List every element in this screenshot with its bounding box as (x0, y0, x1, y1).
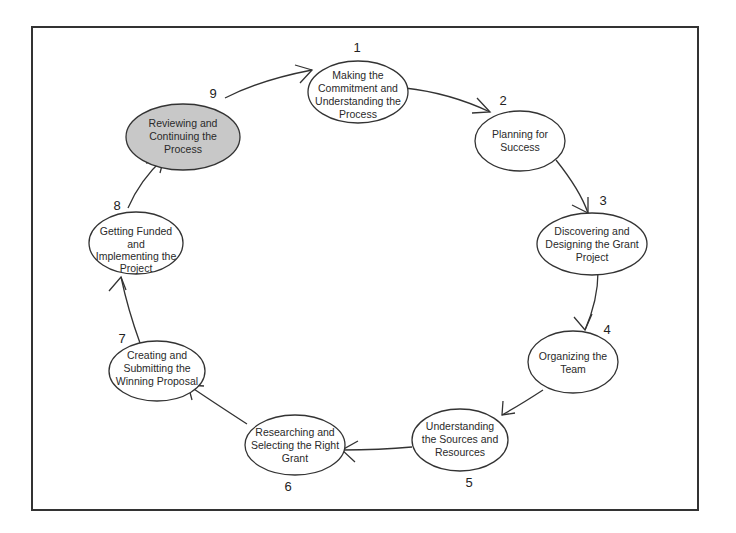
arrow-6-to-7 (188, 385, 247, 424)
step-7: 7 Creating and Submitting the Winning Pr… (109, 331, 205, 401)
step-label-line: Implementing the (96, 250, 177, 262)
step-number: 9 (209, 86, 216, 101)
arrowhead-1 (295, 65, 312, 83)
step-label-line: Grant (282, 452, 308, 464)
step-label-line: Commitment and (318, 82, 398, 94)
step-label-line: Process (164, 143, 202, 155)
step-label-line: Success (500, 141, 540, 153)
step-number: 6 (284, 479, 291, 494)
step-5: Understanding the Sources and Resources … (412, 409, 508, 490)
step-label-line: Project (576, 251, 609, 263)
cycle-diagram: 1 Making the Commitment and Understandin… (0, 0, 736, 533)
arrow-3-to-4 (585, 272, 598, 330)
step-number: 5 (465, 475, 472, 490)
arrow-5-to-6 (342, 447, 412, 450)
step-6: Researching and Selecting the Right Gran… (245, 415, 345, 494)
step-3: 3 Discovering and Designing the Grant Pr… (537, 193, 647, 275)
step-label-line: Understanding the (315, 95, 401, 107)
arrowhead-3 (572, 197, 588, 213)
step-2: 2 Planning for Success (475, 93, 565, 171)
step-label-line: the Sources and (422, 433, 499, 445)
step-number: 3 (599, 193, 606, 208)
step-4: 4 Organizing the Team (528, 322, 618, 393)
arrow-4-to-5 (502, 390, 543, 415)
step-number: 7 (118, 331, 125, 346)
step-label-line: Submitting the (123, 362, 190, 374)
step-label-line: Making the (332, 69, 384, 81)
step-9: 9 Reviewing and Continuing the Process (126, 86, 240, 170)
step-node (528, 331, 618, 393)
step-label-line: Researching and (255, 426, 335, 438)
step-label-line: Reviewing and (149, 117, 218, 129)
step-label-line: Resources (435, 446, 485, 458)
step-label-line: Selecting the Right (251, 439, 339, 451)
step-label-line: Understanding (426, 420, 494, 432)
arrow-1-to-2 (405, 88, 490, 112)
step-label-line: Planning for (492, 128, 549, 140)
arrow-9-to-1 (225, 70, 312, 98)
step-1: 1 Making the Commitment and Understandin… (308, 40, 408, 123)
step-label-line: Discovering and (554, 225, 629, 237)
step-number: 1 (353, 40, 360, 55)
step-label-line: Winning Proposal (116, 375, 198, 387)
step-label-line: Project (120, 262, 153, 274)
step-number: 2 (499, 93, 506, 108)
step-label-line: Process (339, 108, 377, 120)
step-number: 8 (113, 198, 120, 213)
step-label-line: Organizing the (539, 350, 607, 362)
step-label-line: and (127, 238, 145, 250)
step-label-line: Creating and (127, 349, 187, 361)
step-label-line: Designing the Grant (545, 238, 638, 250)
step-label-line: Team (560, 363, 586, 375)
step-label-line: Getting Funded (100, 225, 173, 237)
step-number: 4 (603, 322, 610, 337)
step-label-line: Continuing the (149, 130, 217, 142)
step-8: 8 Getting Funded and Implementing the Pr… (89, 198, 183, 274)
arrowhead-4 (574, 314, 592, 330)
